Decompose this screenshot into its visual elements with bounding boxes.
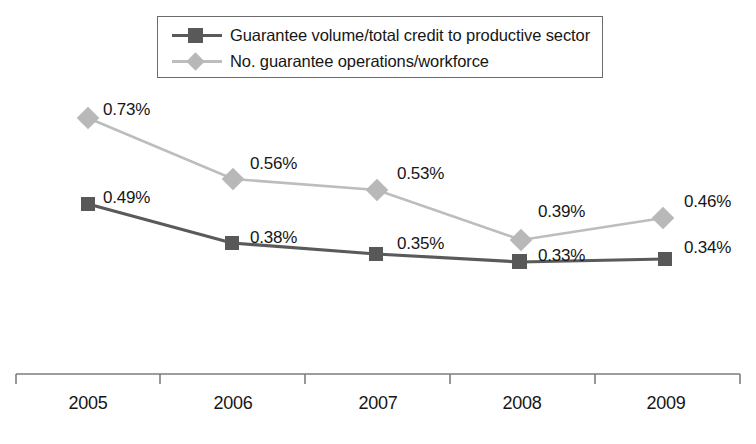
data-label-operations-2007: 0.53% — [397, 164, 444, 184]
x-tick-label-2007: 2007 — [318, 393, 438, 414]
legend-key-diamond — [186, 52, 204, 70]
data-label-operations-2006: 0.56% — [250, 154, 297, 174]
legend-item-label: No. guarantee operations/workforce — [230, 52, 489, 71]
data-label-volume-2008: 0.33% — [538, 246, 585, 266]
x-tick-label-2008: 2008 — [462, 393, 582, 414]
data-label-volume-2005: 0.49% — [103, 188, 150, 208]
chart-legend: Guarantee volume/total credit to product… — [157, 16, 603, 78]
line-chart: Guarantee volume/total credit to product… — [0, 0, 756, 444]
data-label-operations-2005: 0.73% — [103, 100, 150, 120]
x-axis — [16, 374, 740, 384]
legend-item-guarantee-volume[interactable]: Guarantee volume/total credit to product… — [158, 22, 590, 48]
data-label-operations-2009: 0.46% — [684, 192, 731, 212]
x-tick-label-2006: 2006 — [173, 393, 293, 414]
series-markers-guarantee-operations — [77, 107, 675, 252]
legend-key-square — [188, 28, 203, 43]
data-label-volume-2007: 0.35% — [397, 234, 444, 254]
data-label-operations-2008: 0.39% — [538, 202, 585, 222]
legend-item-label: Guarantee volume/total credit to product… — [230, 26, 590, 45]
x-tick-label-2009: 2009 — [606, 393, 726, 414]
legend-item-guarantee-operations[interactable]: No. guarantee operations/workforce — [158, 48, 489, 74]
square-marker-icon — [170, 24, 224, 46]
x-tick-label-2005: 2005 — [28, 393, 148, 414]
diamond-marker-icon — [170, 50, 224, 72]
data-label-volume-2009: 0.34% — [684, 238, 731, 258]
data-label-volume-2006: 0.38% — [250, 228, 297, 248]
